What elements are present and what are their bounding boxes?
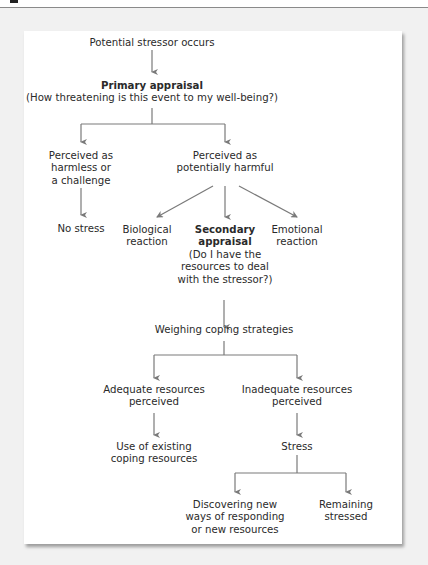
node-text: reaction — [122, 236, 171, 248]
node-perceived-harmless: Perceived as harmless or a challenge — [49, 150, 113, 187]
node-text: Perceived as — [177, 150, 274, 162]
node-text: coping resources — [111, 453, 198, 465]
node-text: harmless or — [49, 162, 113, 174]
node-text: Discovering new — [185, 499, 284, 511]
node-potential-stressor: Potential stressor occurs — [89, 37, 214, 49]
node-title: Primary appraisal — [26, 80, 278, 92]
node-existing-coping: Use of existing coping resources — [111, 441, 198, 466]
node-text: reaction — [271, 236, 322, 248]
node-discovering-new: Discovering new ways of responding or ne… — [185, 499, 284, 536]
node-text: perceived — [103, 396, 205, 408]
node-title: appraisal — [178, 236, 273, 248]
node-adequate-resources: Adequate resources perceived — [103, 384, 205, 409]
node-title: Secondary — [178, 224, 273, 236]
node-text: Stress — [281, 441, 312, 453]
node-text: Biological — [122, 224, 171, 236]
node-text: Emotional — [271, 224, 322, 236]
node-stress: Stress — [281, 441, 312, 453]
node-weighing-coping-strategies: Weighing coping strategies — [155, 324, 294, 336]
node-text: Weighing coping strategies — [155, 324, 294, 336]
node-text: Potential stressor occurs — [89, 37, 214, 49]
node-text: ways of responding — [185, 511, 284, 523]
node-text: No stress — [57, 223, 104, 235]
node-text: perceived — [242, 396, 352, 408]
node-text: Use of existing — [111, 441, 198, 453]
node-text: (How threatening is this event to my wel… — [26, 92, 278, 104]
node-inadequate-resources: Inadequate resources perceived — [242, 384, 352, 409]
node-text: (Do I have the — [178, 249, 273, 261]
node-text: Inadequate resources — [242, 384, 352, 396]
node-text: Adequate resources — [103, 384, 205, 396]
node-remaining-stressed: Remaining stressed — [319, 499, 373, 524]
node-text: a challenge — [49, 175, 113, 187]
node-emotional-reaction: Emotional reaction — [271, 224, 322, 249]
node-secondary-appraisal: Secondary appraisal (Do I have the resou… — [178, 224, 273, 286]
node-text: resources to deal — [178, 261, 273, 273]
node-text: Remaining — [319, 499, 373, 511]
node-text: stressed — [319, 511, 373, 523]
node-text: or new resources — [185, 524, 284, 536]
node-primary-appraisal: Primary appraisal (How threatening is th… — [26, 80, 278, 105]
node-text: with the stressor?) — [178, 274, 273, 286]
node-biological-reaction: Biological reaction — [122, 224, 171, 249]
node-perceived-harmful: Perceived as potentially harmful — [177, 150, 274, 175]
node-text: Perceived as — [49, 150, 113, 162]
node-text: potentially harmful — [177, 162, 274, 174]
node-no-stress: No stress — [57, 223, 104, 235]
